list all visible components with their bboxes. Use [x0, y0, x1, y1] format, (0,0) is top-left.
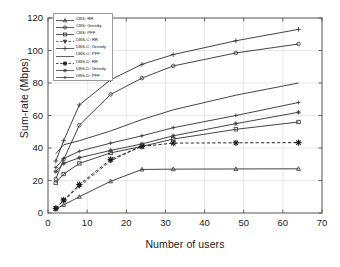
legend-marker-plus-small-icon [55, 72, 75, 79]
legend-item: DBS-D: Greedy [55, 65, 111, 72]
x-tick-label: 20 [114, 217, 138, 228]
y-tick-label: 120 [19, 12, 43, 23]
legend-marker-triangle-up-icon [55, 15, 75, 22]
x-tick-label: 0 [36, 217, 60, 228]
x-tick-label: 10 [75, 217, 99, 228]
legend-marker-square-icon [55, 29, 75, 36]
legend-marker-none-icon [55, 51, 75, 58]
legend-label: CBS: PFF [75, 29, 95, 36]
legend-label: DBS-C: RR [75, 36, 98, 43]
legend-item: DBS-C: Greedy [55, 43, 111, 50]
legend-label: DBS-C: PFF [75, 50, 100, 57]
legend-label: DBS-C: Greedy [75, 43, 106, 50]
x-tick-label: 60 [271, 217, 295, 228]
chart-legend: CBS: RRCBS: GreedyCBS: PFFDBS-C: RRDBS-C… [53, 13, 113, 81]
y-tick-label: 0 [19, 207, 43, 218]
y-axis-label: Sum-rate (Mbps) [18, 38, 30, 158]
legend-marker-asterisk-icon [55, 58, 75, 65]
legend-item: CBS: PFF [55, 29, 111, 36]
legend-label: CBS: RR [75, 15, 93, 22]
legend-label: DBS-D: Greedy [75, 65, 106, 72]
legend-marker-circle-icon [55, 22, 75, 29]
x-tick-label: 50 [232, 217, 256, 228]
x-tick-label: 70 [310, 217, 334, 228]
x-axis-label: Number of users [48, 238, 322, 250]
legend-marker-star-icon [55, 65, 75, 72]
x-tick-label: 40 [193, 217, 217, 228]
data-series [54, 167, 301, 211]
legend-item: DBS-C: PFF [55, 50, 111, 57]
data-series [54, 144, 144, 210]
legend-item: DBS-D: RR [55, 58, 111, 65]
legend-label: DBS-D: PFF [75, 72, 100, 79]
y-tick-label: 20 [19, 175, 43, 186]
legend-item: DBS-D: PFF [55, 72, 111, 79]
legend-label: CBS: Greedy [75, 22, 101, 29]
legend-marker-plus-icon [55, 43, 75, 50]
figure: 010203040506070 020406080100120 Sum-rate… [0, 0, 340, 267]
legend-item: CBS: Greedy [55, 22, 111, 29]
x-tick-label: 30 [153, 217, 177, 228]
legend-marker-triangle-down-icon [55, 36, 75, 43]
data-series [54, 110, 301, 174]
data-series [53, 140, 302, 212]
legend-item: CBS: RR [55, 15, 111, 22]
legend-item: DBS-C: RR [55, 36, 111, 43]
legend-label: DBS-D: RR [75, 58, 98, 65]
